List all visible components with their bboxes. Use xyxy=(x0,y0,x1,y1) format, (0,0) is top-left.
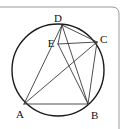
segments-group xyxy=(24,25,97,104)
vertex-label-C: C xyxy=(100,33,107,45)
geometry-figure: A B C D E xyxy=(0,0,120,129)
vertex-label-D: D xyxy=(54,12,62,24)
segment-DE xyxy=(58,25,62,44)
vertex-label-A: A xyxy=(16,108,24,120)
segment-DB xyxy=(62,25,88,104)
segment-EC xyxy=(58,42,97,44)
segment-AD xyxy=(24,25,62,104)
segment-DC xyxy=(62,25,97,42)
vertex-label-B: B xyxy=(91,109,98,121)
segment-BC xyxy=(88,42,97,104)
segment-AC xyxy=(24,42,97,104)
vertex-label-E: E xyxy=(48,37,55,49)
geometry-canvas: A B C D E xyxy=(0,0,120,129)
